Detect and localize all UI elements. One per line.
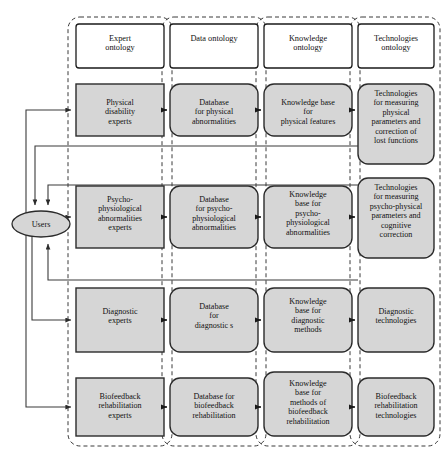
architecture-diagram: Expertontology Data ontology Knowledgeon… [0,0,445,460]
row-physical: Physicaldisabilityexperts Databasefor ph… [76,84,434,164]
node-label-biofeedback-technologies: Biofeedbackrehabilitationtechnologies [374,392,417,420]
row-psycho: Psycho-physiologicalabnormalitiesexperts… [76,178,434,258]
row-diagnostic: Diagnosticexperts Databasefordiagnostic … [76,288,434,352]
node-label-diagnostic-knowledge: Knowledgebase fordiagnosticmethods [289,297,327,334]
feedback-diagnostic-technologies-to-users [48,244,358,280]
column-header-label-expert: Expertontology [105,34,135,52]
node-label-physical-technologies: Technologiesfor measuringphysicalparamet… [371,89,420,145]
node-label-physical-expert: Physicaldisabilityexperts [105,98,136,126]
row-biofeedback: Biofeedbackrehabilitationexperts Databas… [76,372,434,436]
column-headers: Expertontology Data ontology Knowledgeon… [76,24,434,68]
node-label-biofeedback-knowledge: Knowledgebase formethods ofbiofeedbackre… [286,379,329,426]
node-label-biofeedback-data: Database forbiofeedbackrehabilitation [192,392,235,420]
users-actor[interactable]: Users [12,211,70,237]
node-label-diagnostic-technologies: Diagnostictechnologies [376,307,417,325]
column-header-label-knowledge: Knowledgeontology [289,34,328,52]
column-header-box-data [170,24,258,68]
users-label: Users [32,220,51,229]
flow-users-to-diagnostic-expert [32,230,71,320]
column-header-label-data: Data ontology [190,34,238,43]
